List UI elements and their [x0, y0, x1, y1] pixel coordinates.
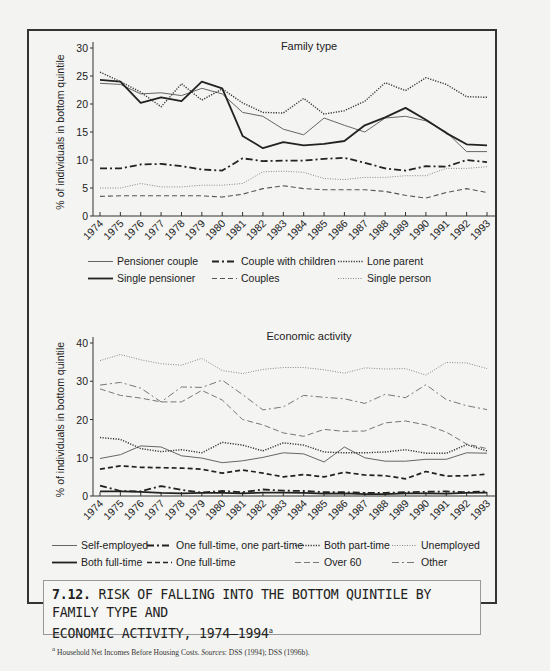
legend-label: Single person — [367, 272, 431, 284]
legend-item-pensioner-couple: Pensioner couple — [88, 255, 198, 267]
x-tick-label: 1975 — [101, 497, 126, 522]
series-line-unemployed — [100, 355, 487, 376]
y-tick-label: 5 — [82, 182, 88, 194]
x-tick-label: 1985 — [304, 497, 329, 522]
legend-label: Couples — [241, 272, 280, 284]
legend-label: Other — [421, 556, 448, 568]
x-tick-label: 1988 — [366, 217, 391, 242]
legend-item-couple-with-children: Couple with children — [212, 255, 336, 267]
legend-label: Over 60 — [324, 556, 362, 568]
x-tick-label: 1976 — [121, 217, 146, 242]
legend-label: Both full-time — [81, 556, 142, 568]
y-tick-label: 15 — [76, 126, 88, 138]
chart-title: Family type — [281, 40, 337, 52]
legend-item-single-person: Single person — [338, 272, 431, 284]
x-tick-label: 1984 — [284, 217, 309, 242]
legend-label: Lone parent — [367, 255, 423, 267]
caption-title-line2: ECONOMIC ACTIVITY, 1974–1994 — [52, 626, 269, 641]
legend-label: Single pensioner — [117, 272, 196, 284]
x-tick-label: 1983 — [264, 217, 289, 242]
x-tick-label: 1991 — [427, 217, 452, 242]
caption-title-line1: RISK OF FALLING INTO THE BOTTOM QUINTILE… — [52, 587, 431, 620]
x-tick-label: 1975 — [101, 217, 126, 242]
legend-item-one-full-time: One full-time — [147, 556, 236, 568]
y-axis-label: % of individuals in bottom quintile — [54, 342, 66, 497]
series-line-over-60 — [100, 389, 487, 449]
y-tick-label: 10 — [76, 452, 88, 464]
y-tick-label: 20 — [76, 414, 88, 426]
legend-label: Self-employed — [81, 539, 148, 551]
legend-label: Pensioner couple — [117, 255, 198, 267]
legend-item-over-60: Over 60 — [295, 556, 362, 568]
series-line-one-full-time-one-part-time — [100, 486, 487, 493]
series-line-single-person — [100, 167, 487, 188]
family-type-legend: Pensioner coupleCouple with childrenLone… — [88, 255, 431, 284]
chart-title: Economic activity — [267, 330, 352, 342]
series-line-couple-with-children — [100, 158, 487, 171]
legend-label: One full-time, one part-time — [176, 539, 303, 551]
sources-label: Sources — [201, 648, 224, 657]
charts-canvas: 0510152025301974197519761977197819791980… — [0, 0, 550, 671]
x-tick-label: 1982 — [243, 497, 268, 522]
legend-item-lone-parent: Lone parent — [338, 255, 423, 267]
y-tick-label: 20 — [76, 98, 88, 110]
legend-label: Couple with children — [241, 255, 336, 267]
x-tick-label: 1990 — [406, 217, 431, 242]
legend-item-other: Other — [392, 556, 448, 568]
x-tick-label: 1989 — [386, 217, 411, 242]
footnote-text: Household Net Incomes Before Housing Cos… — [57, 648, 199, 657]
legend-item-one-full-time-one-part-time: One full-time, one part-time — [147, 539, 303, 551]
x-tick-label: 1981 — [223, 497, 248, 522]
y-tick-label: 10 — [76, 154, 88, 166]
legend-item-self-employed: Self-employed — [52, 539, 148, 551]
caption-number: 7.12. — [52, 587, 91, 602]
y-tick-label: 0 — [82, 210, 88, 222]
economic-activity-legend: Self-employedOne full-time, one part-tim… — [52, 539, 480, 568]
x-tick-label: 1983 — [264, 497, 289, 522]
x-tick-label: 1990 — [406, 497, 431, 522]
x-tick-label: 1977 — [142, 217, 167, 242]
x-tick-label: 1989 — [386, 497, 411, 522]
series-line-single-pensioner — [100, 80, 487, 148]
x-tick-label: 1986 — [325, 217, 350, 242]
x-tick-label: 1979 — [182, 217, 207, 242]
x-tick-label: 1982 — [243, 217, 268, 242]
legend-item-unemployed: Unemployed — [392, 539, 480, 551]
legend-label: Unemployed — [421, 539, 480, 551]
figure-caption: 7.12. RISK OF FALLING INTO THE BOTTOM QU… — [43, 580, 481, 635]
legend-label: One full-time — [176, 556, 236, 568]
x-tick-label: 1980 — [203, 217, 228, 242]
series-line-both-part-time — [100, 438, 487, 454]
caption-footnote: a Household Net Incomes Before Housing C… — [52, 645, 472, 657]
series-line-couples — [100, 186, 487, 198]
x-tick-label: 1981 — [223, 217, 248, 242]
economic-activity-chart: 0102030401974197519761977197819791980198… — [54, 330, 495, 522]
x-tick-label: 1993 — [467, 497, 492, 522]
x-tick-label: 1987 — [345, 497, 370, 522]
y-axis-label: % of individuals in bottom quintile — [54, 54, 66, 209]
y-tick-label: 30 — [76, 375, 88, 387]
x-tick-label: 1976 — [121, 497, 146, 522]
x-tick-label: 1980 — [203, 497, 228, 522]
caption-title: 7.12. RISK OF FALLING INTO THE BOTTOM QU… — [52, 586, 472, 643]
footnote-marker: a — [269, 627, 273, 635]
series-line-one-full-time — [100, 466, 487, 479]
x-tick-label: 1993 — [467, 217, 492, 242]
x-tick-label: 1978 — [162, 497, 187, 522]
x-tick-label: 1985 — [304, 217, 329, 242]
legend-item-single-pensioner: Single pensioner — [88, 272, 196, 284]
sources-text: : DSS (1994); DSS (1996b). — [225, 648, 310, 657]
series-line-self-employed — [100, 446, 487, 463]
x-tick-label: 1987 — [345, 217, 370, 242]
series-line-other — [100, 380, 487, 410]
x-tick-label: 1984 — [284, 497, 309, 522]
legend-item-both-full-time: Both full-time — [52, 556, 142, 568]
x-tick-label: 1991 — [427, 497, 452, 522]
x-tick-label: 1988 — [366, 497, 391, 522]
x-tick-label: 1992 — [447, 217, 472, 242]
legend-label: Both part-time — [324, 539, 390, 551]
y-tick-label: 40 — [76, 337, 88, 349]
legend-item-couples: Couples — [212, 272, 280, 284]
y-tick-label: 30 — [76, 42, 88, 54]
y-tick-label: 0 — [82, 490, 88, 502]
